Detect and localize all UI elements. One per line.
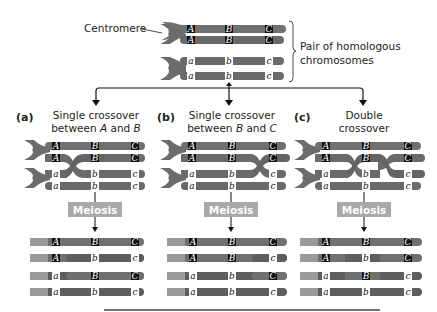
svg-text:c: c — [270, 169, 275, 179]
svg-text:A: A — [322, 141, 330, 151]
gene-label: b — [226, 71, 232, 81]
svg-text:b: b — [363, 287, 369, 297]
svg-text:a: a — [323, 287, 328, 297]
svg-text:b: b — [92, 287, 98, 297]
svg-text:a: a — [190, 287, 195, 297]
svg-text:b: b — [229, 271, 235, 281]
svg-text:C: C — [405, 237, 412, 247]
gene-label: A — [187, 35, 195, 45]
meiosis-products: A B C A b c a B C a b c — [30, 237, 144, 297]
pair-label: Pair of homologous — [300, 40, 401, 52]
svg-text:A: A — [52, 153, 60, 163]
svg-text:A: A — [52, 253, 60, 263]
homologous-pair: A B C A B C a b c a b c Centromere Pair … — [84, 21, 401, 106]
svg-text:c: c — [405, 271, 410, 281]
gene-label: B — [225, 24, 233, 34]
panel-b: (b) Single crossover between B and C A B… — [157, 109, 290, 297]
svg-text:A: A — [189, 237, 197, 247]
gene-label: A — [187, 24, 195, 34]
panel-a: (a) Single crossover between A and B A B… — [16, 109, 145, 297]
gene-label: a — [188, 56, 193, 66]
svg-text:C: C — [132, 141, 139, 151]
pair-label: chromosomes — [300, 54, 374, 66]
svg-text:a: a — [323, 181, 328, 191]
meiosis-label: Meiosis — [73, 204, 117, 216]
centromere-label: Centromere — [84, 22, 146, 34]
gene-label: C — [266, 24, 273, 34]
svg-text:a: a — [53, 271, 58, 281]
svg-text:A: A — [188, 141, 196, 151]
svg-text:b: b — [363, 253, 369, 263]
svg-text:C: C — [270, 153, 277, 163]
svg-text:c: c — [132, 169, 137, 179]
crossover-diagram: A B C A B C a b c a b c Centromere Pair … — [0, 0, 437, 312]
meiosis-products: A B C A b C a B c a b c — [300, 237, 422, 297]
svg-text:B: B — [362, 141, 370, 151]
svg-text:B: B — [228, 253, 236, 263]
svg-text:A: A — [322, 153, 330, 163]
gene-label: B — [225, 35, 233, 45]
svg-text:A: A — [188, 153, 196, 163]
svg-text:c: c — [270, 181, 275, 191]
gene-label: b — [226, 56, 232, 66]
svg-text:c: c — [405, 169, 410, 179]
svg-text:c: c — [270, 287, 275, 297]
arrow-down-icon — [92, 100, 100, 106]
svg-text:B: B — [91, 237, 99, 247]
svg-text:A: A — [322, 237, 330, 247]
svg-text:C: C — [405, 153, 412, 163]
svg-text:A: A — [189, 253, 197, 263]
panel-title-line2: between B and C — [187, 122, 277, 134]
panel-letter: (c) — [294, 111, 311, 124]
svg-text:b: b — [92, 253, 98, 263]
svg-text:b: b — [363, 181, 369, 191]
panel-title-line2: between A and B — [51, 122, 141, 134]
gene-label: a — [188, 71, 193, 81]
svg-text:a: a — [323, 169, 328, 179]
arrow-up-icon — [226, 82, 232, 86]
meiosis-products: A B C A B c a b C a b c — [167, 237, 287, 297]
svg-text:c: c — [405, 181, 410, 191]
svg-text:B: B — [228, 237, 236, 247]
svg-text:C: C — [132, 153, 139, 163]
svg-text:A: A — [52, 141, 60, 151]
svg-text:b: b — [92, 181, 98, 191]
svg-text:C: C — [270, 237, 277, 247]
bracket — [289, 21, 296, 82]
panel-title: Single crossover — [53, 109, 140, 121]
svg-text:B: B — [362, 237, 370, 247]
svg-text:b: b — [363, 169, 369, 179]
svg-text:a: a — [53, 287, 58, 297]
arrow-down-icon — [225, 100, 233, 106]
arrow-down-icon — [359, 100, 367, 106]
gene-label: C — [266, 35, 273, 45]
meiosis-label: Meiosis — [342, 204, 386, 216]
panel-letter: (a) — [16, 111, 33, 124]
panel-letter: (b) — [157, 111, 175, 124]
svg-text:B: B — [91, 141, 99, 151]
panel-c: (c) Double crossover A B C A B C a b c a… — [294, 109, 425, 297]
gene-label: c — [266, 56, 271, 66]
svg-text:b: b — [229, 287, 235, 297]
arrow-down-icon — [361, 227, 367, 232]
svg-text:A: A — [322, 253, 330, 263]
svg-text:B: B — [228, 153, 236, 163]
svg-text:c: c — [270, 253, 275, 263]
svg-text:a: a — [189, 169, 194, 179]
svg-text:a: a — [189, 181, 194, 191]
svg-text:c: c — [132, 253, 137, 263]
svg-text:C: C — [270, 141, 277, 151]
arrow-down-icon — [92, 227, 98, 232]
svg-text:C: C — [270, 271, 277, 281]
svg-text:B: B — [362, 271, 370, 281]
panel-title: Single crossover — [189, 109, 276, 121]
svg-text:b: b — [229, 181, 235, 191]
svg-text:C: C — [405, 141, 412, 151]
svg-text:C: C — [405, 253, 412, 263]
svg-text:C: C — [132, 237, 139, 247]
svg-text:a: a — [53, 169, 58, 179]
svg-text:c: c — [132, 181, 137, 191]
svg-text:C: C — [132, 271, 139, 281]
svg-text:a: a — [323, 271, 328, 281]
arrow-down-icon — [228, 227, 234, 232]
